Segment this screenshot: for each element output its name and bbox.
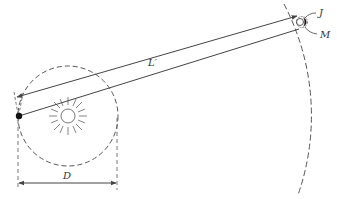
earth-jupiter-line — [19, 29, 299, 116]
distance-arrow — [17, 16, 297, 97]
diameter-label: D — [62, 170, 71, 181]
moon-label: M — [319, 29, 331, 40]
moon-leader — [305, 27, 317, 34]
earth-dot — [16, 113, 22, 119]
jupiter-icon — [297, 17, 308, 28]
diagram-canvas: J M L′ D — [0, 0, 337, 199]
extension-line — [14, 92, 18, 114]
sun-icon — [49, 97, 87, 135]
distance-label: L′ — [147, 57, 158, 68]
jupiter-leader — [305, 13, 316, 18]
jupiter-label: J — [317, 7, 324, 18]
